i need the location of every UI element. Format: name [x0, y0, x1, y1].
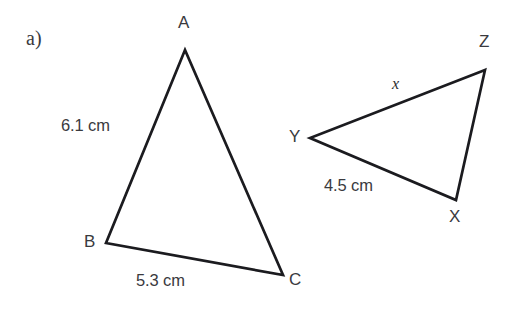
- side-length-ab: 6.1 cm: [61, 117, 110, 134]
- geometry-figure: a) A B C 6.1 cm 5.3 cm Z Y X x 4.5 cm: [0, 0, 518, 313]
- vertex-label-z: Z: [479, 33, 490, 50]
- side-length-yz-variable: x: [392, 76, 399, 92]
- vertex-label-a: A: [178, 14, 190, 31]
- vertex-label-b: B: [84, 233, 96, 250]
- figure-canvas: [0, 0, 518, 313]
- vertex-label-x: X: [449, 208, 461, 225]
- item-label-a: a): [26, 28, 42, 48]
- side-length-bc: 5.3 cm: [136, 272, 185, 289]
- vertex-label-c: C: [289, 271, 301, 288]
- side-length-yx: 4.5 cm: [324, 177, 373, 194]
- vertex-label-y: Y: [289, 128, 301, 145]
- triangle-abc-outline: [106, 50, 283, 275]
